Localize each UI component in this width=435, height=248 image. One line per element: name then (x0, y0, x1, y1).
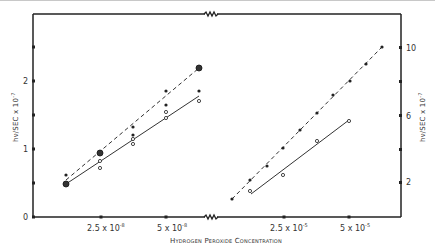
axis-break-bottom-icon (204, 215, 218, 219)
right-x-tick-2: 5 x 10-5 (340, 222, 370, 233)
plot-frame (33, 14, 401, 217)
right-x-tick-1: 2.5 x 10-5 (270, 222, 308, 233)
left-dashed-line (66, 68, 199, 180)
left-filled-points (64, 89, 200, 176)
left-y-tick-0: 0 (23, 213, 28, 222)
x-axis-title: Hydrogen Peroxide Concentration (170, 237, 282, 245)
chart-canvas: 0 1 2 10 6 2 2.5 x 10-8 5 x 10-8 2.5 x 1… (0, 0, 435, 248)
left-x-tick-2: 5 x 10-8 (157, 222, 187, 233)
right-dashed-line (232, 47, 382, 199)
right-y-tick-10: 10 (406, 44, 416, 53)
right-y-tick-2: 2 (406, 178, 411, 187)
right-y-tick-6: 6 (406, 112, 411, 121)
left-y-tick-1: 1 (23, 145, 28, 154)
left-y-axis-title: hν/SEC x 10-7 (10, 92, 20, 142)
right-y-axis-title: hν/SEC x 10-7 (417, 92, 427, 142)
left-open-points (98, 99, 200, 169)
left-y-tick-2: 2 (23, 77, 28, 86)
axis-break-top-icon (204, 12, 218, 16)
left-x-tick-1: 2.5 x 10-8 (87, 222, 125, 233)
